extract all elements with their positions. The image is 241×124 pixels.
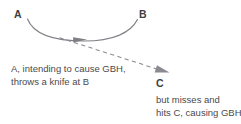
outcome-caption-line-2: hits C, causing GBH xyxy=(156,106,241,119)
transferred-malice-diagram: A B C A, intending to cause GBH, throws … xyxy=(0,0,241,124)
intended-throw-arc xyxy=(28,19,138,41)
intent-caption: A, intending to cause GBH, throws a knif… xyxy=(11,62,126,88)
arc-arrowhead-icon xyxy=(73,37,87,42)
node-label-b: B xyxy=(139,9,147,20)
node-label-a: A xyxy=(14,9,22,20)
node-label-c: C xyxy=(156,78,164,89)
dashed-arrowhead-icon xyxy=(155,65,170,72)
intent-caption-line-2: throws a knife at B xyxy=(11,75,126,88)
intent-caption-line-1: A, intending to cause GBH, xyxy=(11,62,126,75)
outcome-caption-line-1: but misses and xyxy=(156,93,241,106)
outcome-caption: but misses and hits C, causing GBH xyxy=(156,93,241,119)
